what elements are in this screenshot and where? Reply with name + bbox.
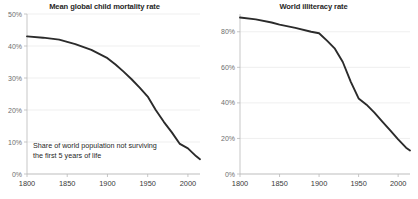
ytick-label: 50% bbox=[8, 11, 22, 18]
ytick-label: 60% bbox=[221, 64, 235, 71]
ytick-label: 0% bbox=[225, 171, 235, 178]
ytick-label: 0% bbox=[12, 171, 22, 178]
xtick-label: 1800 bbox=[232, 179, 248, 188]
ytick-label: 30% bbox=[8, 75, 22, 82]
xtick-label: 1850 bbox=[271, 179, 287, 188]
ytick-label: 20% bbox=[221, 135, 235, 142]
ytick-label: 40% bbox=[8, 43, 22, 50]
ytick-label: 80% bbox=[221, 28, 235, 35]
chart-plot-child-mortality: 0%10%20%30%40%50%18001850190019502000Sha… bbox=[0, 0, 209, 199]
ytick-label: 20% bbox=[8, 107, 22, 114]
chart-panel-child-mortality: Mean global child mortality rate 0%10%20… bbox=[0, 0, 209, 199]
xtick-label: 2000 bbox=[180, 179, 196, 188]
xtick-label: 1900 bbox=[311, 179, 327, 188]
chart-annotation-line2: the first 5 years of life bbox=[33, 151, 101, 160]
ytick-label: 10% bbox=[8, 139, 22, 146]
chart-panel-illiteracy: World illiteracy rate 0%20%40%60%80%1800… bbox=[209, 0, 418, 199]
charts-row: Mean global child mortality rate 0%10%20… bbox=[0, 0, 418, 199]
xtick-label: 1950 bbox=[350, 179, 366, 188]
chart-plot-illiteracy: 0%20%40%60%80%18001850190019502000 bbox=[209, 0, 418, 199]
ytick-label: 40% bbox=[221, 99, 235, 106]
xtick-label: 1850 bbox=[59, 179, 75, 188]
xtick-label: 1800 bbox=[19, 179, 35, 188]
xtick-label: 2000 bbox=[390, 179, 406, 188]
xtick-label: 1950 bbox=[139, 179, 155, 188]
xtick-label: 1900 bbox=[99, 179, 115, 188]
data-series-line bbox=[240, 18, 410, 151]
chart-annotation-line1: Share of world population not surviving bbox=[33, 141, 157, 150]
